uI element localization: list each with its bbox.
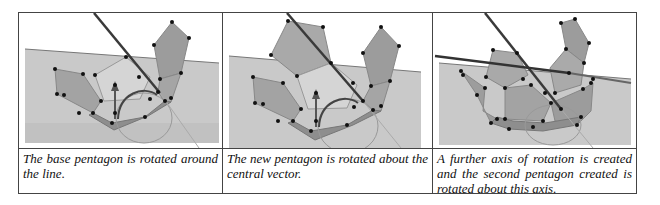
caption-3: A further axis of rotation is created an…	[433, 149, 636, 194]
figure-table: The base pentagon is rotated around the …	[18, 12, 637, 194]
figure-further-axis-rotation	[433, 13, 636, 148]
figure-base-pentagon-rotation	[19, 13, 222, 148]
geometry-illustration-1	[19, 13, 222, 148]
caption-row: The base pentagon is rotated around the …	[19, 149, 636, 194]
caption-2: The new pentagon is rotated about the ce…	[223, 149, 432, 194]
caption-1: The base pentagon is rotated around the …	[19, 149, 222, 194]
geometry-illustration-2	[223, 13, 432, 148]
figure-new-pentagon-rotation	[223, 13, 432, 148]
geometry-illustration-3	[433, 13, 636, 148]
image-row	[19, 13, 636, 149]
